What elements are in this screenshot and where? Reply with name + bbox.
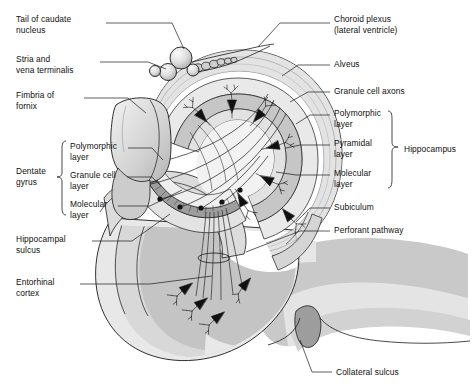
label-line: layer [70, 181, 89, 191]
leader-choroid-plexus [258, 23, 330, 47]
label-line: Entorhinal [16, 277, 55, 287]
label-subiculum: Subiculum [334, 202, 374, 213]
label-molecular-layer-dentate: Molecularlayer [70, 199, 107, 221]
label-tail-of-caudate-nucleus: Tail of caudatenucleus [16, 14, 71, 36]
label-line: Molecular [70, 199, 107, 209]
hippocampus-bracket [388, 111, 398, 188]
label-line: layer [70, 152, 89, 162]
label-hippocampal-sulcus: Hippocampalsulcus [16, 234, 66, 256]
caudate-and-stria-spheres [150, 47, 200, 81]
label-granule-cell-axons: Granule cell axons [334, 86, 405, 97]
label-line: cortex [16, 288, 39, 298]
dentate-gyrus-bracket [57, 141, 66, 215]
stria-terminalis-sphere [160, 64, 177, 81]
label-line: Perforant pathway [334, 225, 403, 235]
label-line: Hippocampal [16, 234, 66, 244]
label-stria-and-vena-terminalis: Stria andvena terminalis [16, 54, 74, 76]
label-line: Molecular [334, 168, 371, 178]
accessory-sphere [187, 64, 199, 76]
vena-terminalis-sphere [150, 66, 161, 77]
label-line: Subiculum [334, 202, 374, 212]
label-polymorphic-layer-hippocampus: Polymorphiclayer [334, 108, 381, 130]
label-entorhinal-cortex: Entorhinalcortex [16, 277, 55, 299]
label-fimbria-of-fornix: Fimbria offornix [16, 90, 54, 112]
label-line: gyrus [16, 177, 37, 187]
label-line: fornix [16, 101, 37, 111]
label-line: Hippocampus [404, 144, 456, 154]
label-line: Fimbria of [16, 90, 54, 100]
label-line: Polymorphic [70, 141, 117, 151]
label-line: Pyramidal [334, 138, 372, 148]
label-line: sulcus [16, 245, 40, 255]
label-line: nucleus [16, 25, 45, 35]
leader-tail-caudate [106, 23, 184, 49]
label-line: Granule cell [70, 170, 116, 180]
label-pyramidal-layer: Pyramidallayer [334, 138, 372, 160]
label-polymorphic-layer-dentate: Polymorphiclayer [70, 141, 117, 163]
label-line: (lateral ventricle) [334, 25, 398, 35]
label-line: Collateral sulcus [336, 367, 399, 377]
label-line: layer [334, 179, 353, 189]
label-perforant-pathway: Perforant pathway [334, 225, 403, 236]
label-molecular-layer-hippocampus: Molecularlayer [334, 168, 371, 190]
label-line: vena terminalis [16, 65, 74, 75]
label-line: layer [334, 119, 353, 129]
label-choroid-plexus: Choroid plexus(lateral ventricle) [334, 14, 398, 36]
label-alveus: Alveus [334, 59, 360, 70]
label-collateral-sulcus: Collateral sulcus [336, 367, 399, 378]
hippocampus-anatomical-figure: Tail of caudatenucleus Stria andvena ter… [0, 0, 475, 388]
label-granule-cell-layer: Granule celllayer [70, 170, 116, 192]
label-hippocampus: Hippocampus [404, 144, 456, 155]
label-line: Granule cell axons [334, 86, 405, 96]
label-line: Alveus [334, 59, 360, 69]
label-line: layer [70, 210, 89, 220]
label-line: Polymorphic [334, 108, 381, 118]
label-line: Tail of caudate [16, 14, 71, 24]
label-line: layer [334, 149, 353, 159]
label-line: Choroid plexus [334, 14, 391, 24]
label-line: Stria and [16, 54, 50, 64]
label-line: Dentate [16, 166, 46, 176]
label-dentate-gyrus: Dentategyrus [16, 166, 46, 188]
